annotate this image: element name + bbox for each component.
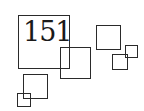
decorative-square-tiny-lower-left [17,93,31,107]
decorative-square-small-right-upper [125,45,138,58]
page-number: 151 [23,18,72,45]
decorative-square-upper-right [96,25,121,50]
decorative-square-center [60,47,91,79]
